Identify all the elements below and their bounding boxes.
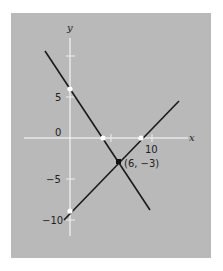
y-tick-label-neg10: −10	[42, 215, 63, 226]
intersection-label: (6, −3)	[124, 158, 159, 169]
x-axis-label: x	[189, 132, 195, 143]
coordinate-plane: y x 5 0 −5 −10 10 (6, −3)	[0, 0, 223, 271]
x-tick-label-10: 10	[145, 144, 158, 155]
intersection-point	[116, 159, 121, 164]
y-intercept-2-point	[67, 208, 72, 213]
y-tick-label-neg5: −5	[46, 174, 61, 185]
y-tick-label-0: 0	[55, 127, 61, 138]
line-2	[64, 101, 179, 220]
x-intercept-1-point	[100, 135, 105, 140]
y-tick-label-5: 5	[55, 92, 61, 103]
y-intercept-1-point	[67, 86, 72, 91]
y-axis-label: y	[66, 22, 73, 33]
x-intercept-2-point	[138, 135, 143, 140]
